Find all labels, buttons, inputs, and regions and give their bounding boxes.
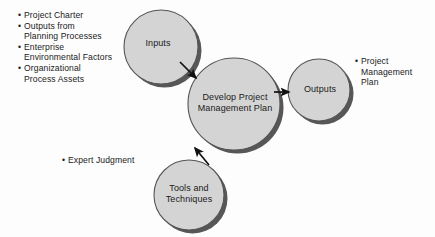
list-item: • Project Management Plan: [355, 56, 431, 88]
list-item: • Enterprise Environmental Factors: [18, 42, 122, 63]
list-item: • Expert Judgment: [62, 155, 162, 166]
node-inputs[interactable]: [124, 10, 202, 88]
node-outputs[interactable]: [288, 59, 354, 125]
process-flow-diagram: Inputs Develop Project Management Plan O…: [0, 0, 435, 237]
list-item-label: Expert Judgment: [68, 155, 162, 166]
node-tools[interactable]: [154, 160, 228, 234]
outputs-circle: [288, 59, 350, 121]
list-item-label: Project Charter: [24, 10, 122, 21]
list-item: • Outputs from Planning Processes: [18, 21, 122, 42]
process-circle: [188, 58, 280, 150]
outputs-bullet-list: • Project Management Plan: [355, 56, 431, 88]
list-item-label: Project Management Plan: [361, 56, 431, 88]
list-item-label: Enterprise Environmental Factors: [24, 42, 122, 63]
list-item-label: Outputs from Planning Processes: [24, 21, 122, 42]
inputs-bullet-list: • Project Charter • Outputs from Plannin…: [18, 10, 122, 84]
list-item: • Project Charter: [18, 10, 122, 21]
inputs-circle: [124, 10, 198, 84]
tools-bullet-list: • Expert Judgment: [62, 155, 162, 166]
node-process[interactable]: [188, 58, 284, 154]
tools-circle: [154, 160, 224, 230]
list-item: • Organizational Process Assets: [18, 63, 122, 84]
list-item-label: Organizational Process Assets: [24, 63, 122, 84]
